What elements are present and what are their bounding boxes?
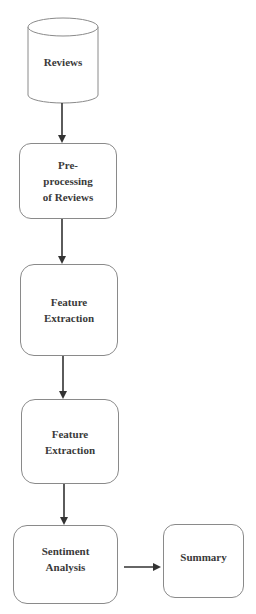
node-preprocessing-label: Pre- processing of Reviews bbox=[43, 157, 93, 205]
node-feature-extraction-1-label: Feature Extraction bbox=[44, 294, 94, 326]
node-feature-extraction-2-label: Feature Extraction bbox=[45, 426, 95, 458]
node-preprocessing: Pre- processing of Reviews bbox=[19, 143, 117, 219]
node-reviews: Reviews bbox=[28, 52, 98, 70]
node-sentiment-analysis-label: Sentiment Analysis bbox=[42, 543, 90, 575]
node-summary-label: Summary bbox=[180, 549, 226, 565]
node-summary: Summary bbox=[163, 524, 244, 598]
flowchart-canvas: Reviews Pre- processing of Reviews Featu… bbox=[0, 0, 256, 614]
node-feature-extraction-1: Feature Extraction bbox=[20, 264, 118, 356]
node-sentiment-analysis: Sentiment Analysis bbox=[13, 525, 118, 604]
node-feature-extraction-2: Feature Extraction bbox=[21, 399, 119, 484]
node-reviews-label: Reviews bbox=[44, 56, 83, 68]
